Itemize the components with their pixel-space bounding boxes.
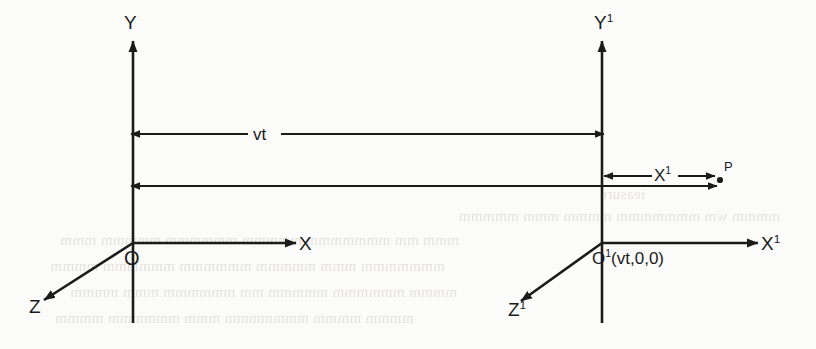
origin-prime-label-text: O (592, 249, 605, 268)
frame-s-axes (44, 41, 296, 323)
y-axis-label: Y (124, 13, 137, 32)
y-prime-axis-label-text: Y (594, 12, 607, 33)
origin-prime-label: O1(vt,0,0) (592, 250, 664, 267)
frame-s-prime-axes (521, 41, 758, 323)
z-prime-axis-label-text: Z (508, 299, 520, 320)
separation-measure-label: vt (253, 126, 266, 143)
z-axis-label: Z (29, 297, 41, 316)
x-prime-axis-label-text: X (761, 233, 774, 254)
x-prime-measure-label: X1 (654, 167, 671, 184)
z-prime-axis-line (521, 243, 602, 301)
z-prime-axis-label: Z1 (508, 300, 526, 319)
x-prime-axis-label: X1 (761, 234, 780, 253)
x-prime-measure-label-text: X (654, 166, 665, 185)
diagram-vector-layer (0, 0, 816, 349)
x-prime-axis-label-superscript: 1 (774, 232, 781, 245)
x-prime-measure-label-superscript: 1 (665, 164, 671, 176)
diagram-canvas: ieasure mmmm wm mmmmmmm mmmm mmm mmmmm m… (0, 0, 816, 349)
x-axis-label: X (299, 234, 312, 253)
event-point-label: P (724, 160, 733, 173)
z-axis-line (44, 243, 133, 300)
y-prime-axis-label-superscript: 1 (607, 11, 614, 24)
event-point-dot (717, 177, 723, 183)
y-prime-axis-label: Y1 (594, 13, 613, 32)
origin-label: O (124, 248, 140, 268)
origin-prime-coords: (vt,0,0) (611, 249, 664, 268)
z-prime-axis-label-superscript: 1 (520, 298, 527, 311)
